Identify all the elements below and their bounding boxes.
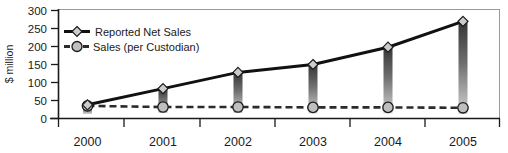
y-tick-label-300: 300: [28, 5, 47, 17]
y-tick-label-250: 250: [28, 23, 47, 35]
legend-label-sales-per-custodian: Sales (per Custodian): [93, 41, 199, 53]
y-tick-label-200: 200: [28, 41, 47, 53]
x-tick-label-2000: 2000: [74, 135, 102, 149]
x-tick-label-2004: 2004: [374, 135, 402, 149]
y-tick-label-100: 100: [28, 77, 47, 89]
x-tick-label-2003: 2003: [299, 135, 327, 149]
y-axis-title: $ million: [3, 45, 15, 84]
x-tick-label-2001: 2001: [149, 135, 177, 149]
x-tick-label-2002: 2002: [224, 135, 252, 149]
y-tick-label-50: 50: [34, 95, 47, 107]
x-axis-ticks: [59, 119, 500, 128]
y-axis-ticks: [51, 11, 59, 119]
sales-line-chart: 300 250 200 150 100 50 0 $ million: [0, 0, 508, 153]
chart-container: 300 250 200 150 100 50 0 $ million: [0, 0, 508, 153]
y-tick-label-0: 0: [41, 113, 47, 125]
circle-marker-icon: [72, 42, 82, 52]
y-tick-label-150: 150: [28, 59, 47, 71]
x-tick-label-2005: 2005: [449, 135, 477, 149]
legend-label-reported-net-sales: Reported Net Sales: [95, 26, 191, 38]
